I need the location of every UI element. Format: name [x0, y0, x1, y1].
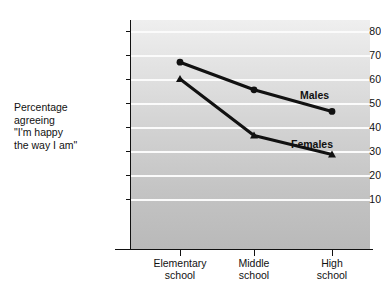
- data-point-males-2: [329, 108, 336, 115]
- series-label-males: Males: [300, 90, 329, 101]
- data-point-females-0: [176, 75, 184, 82]
- data-point-males-0: [177, 59, 184, 66]
- series-label-females: Females: [291, 139, 333, 150]
- series-line-males: [180, 62, 332, 111]
- data-point-males-1: [251, 86, 258, 93]
